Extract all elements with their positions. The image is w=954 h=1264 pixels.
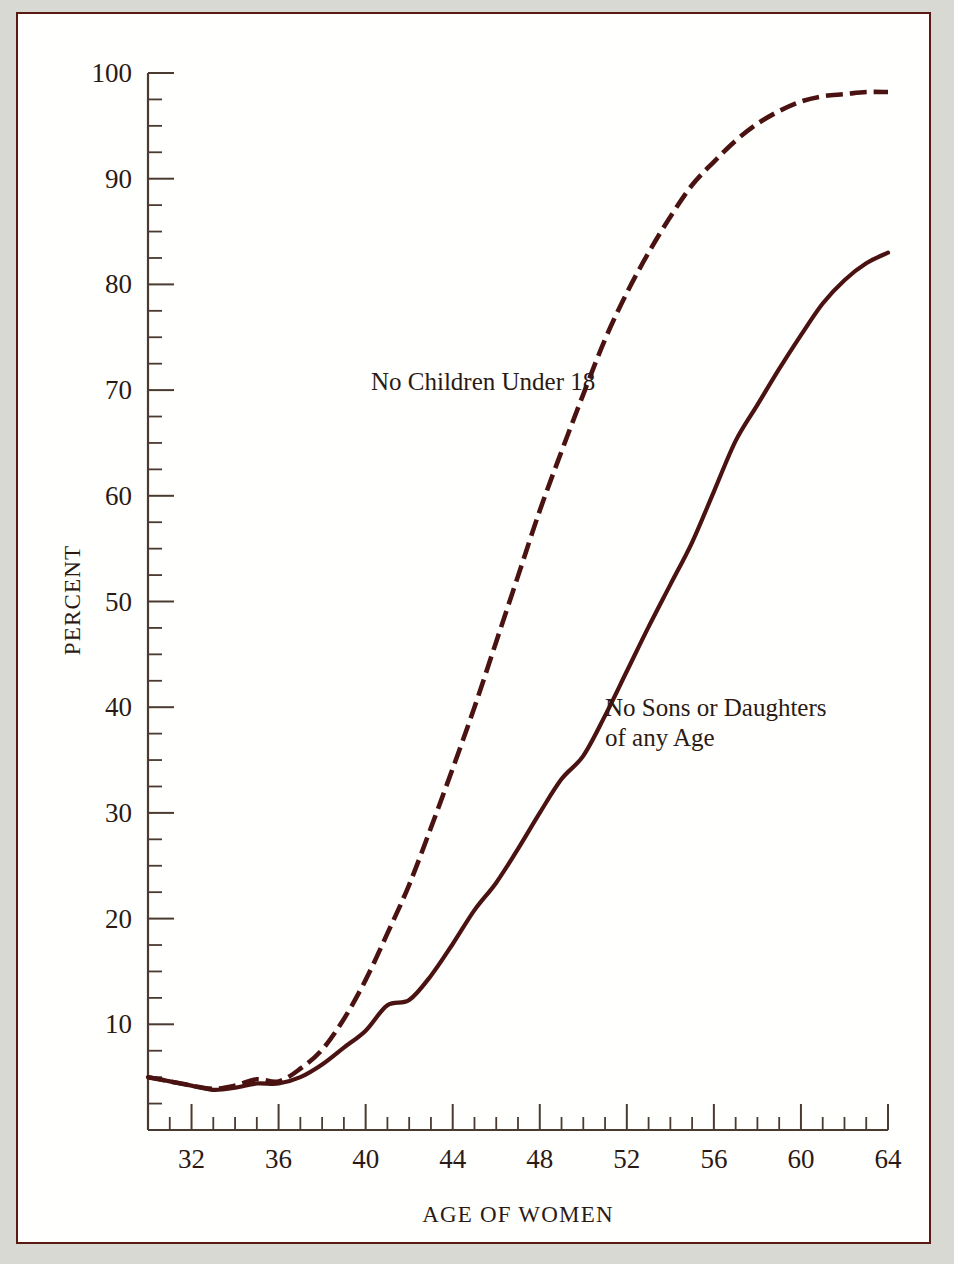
- y-tick-label: 60: [105, 481, 132, 511]
- annotation-no-sons-or-daughters-line1: No Sons or Daughters: [605, 694, 827, 721]
- y-tick-label: 30: [105, 798, 132, 828]
- x-axis-title: AGE OF WOMEN: [422, 1202, 614, 1227]
- tick-labels-layer: 102030405060708090100323640444852566064: [92, 58, 903, 1174]
- y-tick-label: 80: [105, 269, 132, 299]
- annotation-no-sons-or-daughters-line2: of any Age: [605, 724, 715, 751]
- y-tick-label: 10: [105, 1009, 132, 1039]
- line-chart: 102030405060708090100323640444852566064 …: [0, 0, 954, 1264]
- x-tick-label: 32: [178, 1144, 205, 1174]
- x-tick-label: 64: [875, 1144, 903, 1174]
- chart-container: 102030405060708090100323640444852566064 …: [0, 0, 954, 1264]
- y-tick-label: 40: [105, 692, 132, 722]
- y-tick-label: 100: [92, 58, 133, 88]
- y-tick-label: 50: [105, 587, 132, 617]
- series-line-no-children-under-18: [148, 92, 888, 1089]
- page-background: 102030405060708090100323640444852566064 …: [0, 0, 954, 1264]
- y-tick-label: 90: [105, 164, 132, 194]
- annotation-no-children-under-18: No Children Under 18: [371, 368, 595, 395]
- x-tick-label: 40: [352, 1144, 379, 1174]
- y-tick-label: 70: [105, 375, 132, 405]
- x-tick-label: 56: [700, 1144, 727, 1174]
- y-tick-label: 20: [105, 904, 132, 934]
- x-tick-label: 44: [439, 1144, 467, 1174]
- x-tick-label: 60: [787, 1144, 814, 1174]
- y-axis-title: PERCENT: [60, 545, 85, 656]
- x-tick-label: 48: [526, 1144, 553, 1174]
- x-tick-label: 36: [265, 1144, 292, 1174]
- x-tick-label: 52: [613, 1144, 640, 1174]
- series-layer: [148, 92, 888, 1090]
- axes-layer: [148, 73, 888, 1130]
